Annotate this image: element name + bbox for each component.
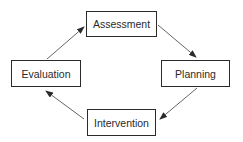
- node-intervention-label: Intervention: [94, 117, 149, 129]
- node-intervention: Intervention: [87, 109, 156, 136]
- arrow-planning-to-intervention: [160, 88, 197, 119]
- node-assessment-label: Assessment: [93, 18, 150, 30]
- arrow-assessment-to-planning: [158, 25, 196, 57]
- arrow-evaluation-to-assessment: [47, 27, 84, 59]
- node-evaluation-label: Evaluation: [21, 68, 70, 80]
- node-planning-label: Planning: [175, 68, 216, 80]
- node-planning: Planning: [161, 60, 230, 87]
- arrow-intervention-to-evaluation: [46, 91, 84, 119]
- node-evaluation: Evaluation: [11, 60, 81, 87]
- node-assessment: Assessment: [86, 11, 157, 37]
